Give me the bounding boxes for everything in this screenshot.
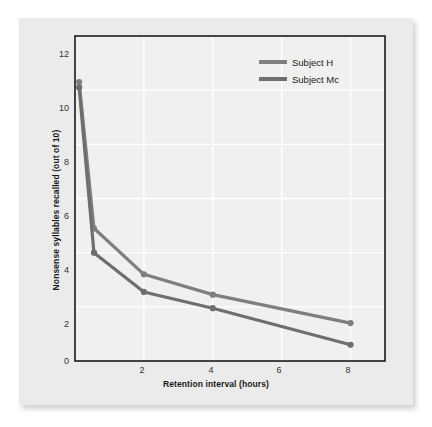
legend-label-subject-mc: Subject Mc (292, 74, 339, 85)
x-axis-title: Retention interval (hours) (19, 379, 413, 389)
y-axis-title: Nonsense syllables recalled (out of 10) (51, 65, 61, 355)
legend-item-subject-h[interactable]: Subject H (259, 54, 383, 70)
legend-item-subject-mc[interactable]: Subject Mc (259, 71, 383, 87)
chart-area: 12 10 8 6 4 2 0 2 4 6 8 Subject H (19, 18, 413, 405)
data-point (347, 342, 353, 348)
data-point (91, 250, 97, 256)
data-point (141, 289, 147, 295)
data-point (210, 305, 216, 311)
legend: Subject H Subject Mc (259, 54, 383, 88)
data-point (210, 292, 216, 298)
legend-swatch-subject-h (259, 60, 287, 64)
data-point (76, 84, 82, 90)
figure-card: 12 10 8 6 4 2 0 2 4 6 8 Subject H (19, 18, 413, 405)
data-point (141, 271, 147, 277)
data-point (347, 320, 353, 326)
data-point (76, 79, 82, 85)
legend-swatch-subject-mc (259, 77, 287, 81)
legend-label-subject-h: Subject H (292, 57, 333, 68)
